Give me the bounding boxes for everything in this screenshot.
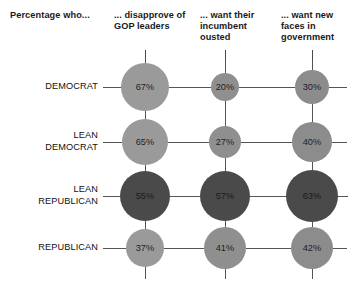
bubble-lean-democrat-ousted[interactable]: 27% <box>209 126 241 158</box>
vconnector-col-0-a <box>145 111 146 119</box>
vconnector-col-1-top <box>225 60 226 73</box>
bubble-value: 63% <box>303 191 322 201</box>
connector-row-0-seg-2 <box>239 87 295 88</box>
bubble-democrat-disapprove[interactable]: 67% <box>121 63 169 111</box>
row-label-democrat: DEMOCRAT <box>8 81 98 93</box>
bubble-value: 27% <box>216 137 235 147</box>
connector-row-0-lead <box>103 87 123 88</box>
bubble-value: 65% <box>136 137 155 147</box>
bubble-value: 41% <box>216 243 235 253</box>
connector-row-3-tail <box>333 248 347 249</box>
vconnector-col-2-top <box>312 60 313 70</box>
vconnector-col-1-a <box>225 101 226 126</box>
bubble-democrat-new-faces[interactable]: 30% <box>295 70 329 104</box>
vconnector-col-0-c <box>145 221 146 229</box>
bubble-lean-republican-new-faces[interactable]: 63% <box>286 170 338 222</box>
vconnector-col-1-b <box>225 158 226 171</box>
connector-row-3-seg-2 <box>246 248 291 249</box>
bubble-lean-republican-disapprove[interactable]: 55% <box>120 171 170 221</box>
bubble-value: 37% <box>136 243 155 253</box>
bubble-lean-republican-ousted[interactable]: 57% <box>200 171 250 221</box>
bubble-republican-ousted[interactable]: 41% <box>204 227 246 269</box>
row-label-lean-republican: LEAN REPUBLICAN <box>4 184 98 207</box>
vconnector-col-2-a <box>312 104 313 122</box>
column-tick-1 <box>145 50 146 60</box>
row-label-republican: REPUBLICAN <box>8 242 98 254</box>
connector-row-0-seg-1 <box>169 87 211 88</box>
connector-row-0-tail <box>329 87 347 88</box>
column-header-want-new-faces: ... want new faces in government <box>281 10 357 44</box>
bubble-value: 20% <box>216 82 235 92</box>
column-tick-2 <box>225 50 226 60</box>
bubble-value: 40% <box>303 137 322 147</box>
connector-row-1-lead <box>103 142 122 143</box>
connector-row-3-lead <box>103 248 126 249</box>
connector-row-1-seg-1 <box>168 142 209 143</box>
bubble-matrix-chart: Percentage who... ... disapprove of GOP … <box>0 0 359 283</box>
row-label-lean-democrat: LEAN DEMOCRAT <box>8 130 98 153</box>
column-tick-3 <box>312 50 313 60</box>
bubble-lean-democrat-disapprove[interactable]: 65% <box>122 119 168 165</box>
bubble-lean-democrat-new-faces[interactable]: 40% <box>292 122 332 162</box>
connector-row-1-tail <box>332 142 347 143</box>
bubble-value: 55% <box>136 191 155 201</box>
connector-row-2-lead <box>103 196 120 197</box>
column-header-disapprove-gop-leaders: ... disapprove of GOP leaders <box>114 10 192 32</box>
bubble-republican-new-faces[interactable]: 42% <box>291 227 333 269</box>
bubble-value: 42% <box>303 243 322 253</box>
connector-row-3-seg-1 <box>164 248 204 249</box>
bubble-democrat-ousted[interactable]: 20% <box>211 73 239 101</box>
vconnector-col-2-b <box>312 162 313 170</box>
vconnector-col-1-bottom <box>225 269 226 279</box>
connector-row-1-seg-2 <box>241 142 292 143</box>
column-header-want-incumbent-ousted: ... want their incumbent ousted <box>200 10 274 44</box>
bubble-republican-disapprove[interactable]: 37% <box>126 229 164 267</box>
vconnector-col-2-bottom <box>312 269 313 279</box>
bubble-value: 57% <box>216 191 235 201</box>
bubble-value: 67% <box>136 82 155 92</box>
bubble-value: 30% <box>303 82 322 92</box>
connector-row-2-seg-1 <box>170 196 200 197</box>
connector-row-2-seg-2 <box>250 196 286 197</box>
connector-row-2-tail <box>338 196 348 197</box>
vconnector-col-0-bottom <box>145 267 146 279</box>
chart-lead-label: Percentage who... <box>10 10 90 20</box>
